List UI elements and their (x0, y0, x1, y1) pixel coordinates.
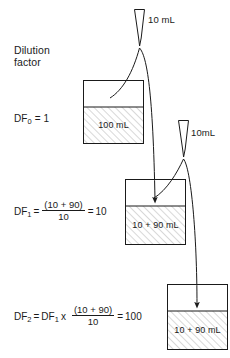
pipette-1-label: 10 mL (148, 14, 175, 25)
pipette-2 (179, 121, 189, 158)
df0-equation: DF0 = 1 (14, 113, 49, 125)
df2-value: 100 (125, 311, 142, 323)
beaker-1 (126, 180, 186, 245)
df2-lhs: DF2 (14, 311, 32, 323)
df0-prefix: DF (14, 113, 28, 124)
transfer-2-intake (154, 159, 184, 198)
df2-fraction: (10 + 90) 10 (72, 305, 114, 329)
df2-equals: = (34, 311, 40, 323)
dilution-factor-heading-line2: factor (14, 56, 50, 68)
df0-value: 1 (44, 113, 50, 124)
df2-times: x (61, 311, 66, 323)
beaker-2-label: 10 + 90 mL (167, 325, 228, 335)
df2-equation: DF2 = DF1 x (10 + 90) 10 = 100 (14, 305, 142, 329)
df2-numerator: (10 + 90) (72, 305, 114, 316)
beaker-0-label: 100 mL (83, 120, 144, 130)
df1-prefix: DF (14, 206, 27, 217)
df0-subscript: 0 (28, 117, 32, 126)
transfer-1-intake (110, 48, 140, 98)
df1-lhs: DF1 (14, 206, 32, 218)
beaker-1-label: 10 + 90 mL (125, 220, 186, 230)
df2-prefix: DF (14, 311, 27, 322)
df1-value: 10 (96, 206, 107, 218)
df1-result-equals: = (88, 206, 94, 218)
df1-denominator: 10 (42, 210, 84, 223)
df2-multiplicand-prefix: DF (41, 311, 54, 322)
df1-numerator: (10 + 90) (42, 200, 84, 211)
dilution-factor-heading-line1: Dilution (14, 44, 50, 56)
pipette-1-body (135, 10, 145, 47)
df2-subscript: 2 (27, 315, 31, 324)
pipette-2-label: 10mL (191, 127, 215, 138)
df1-subscript: 1 (27, 210, 31, 219)
pipette-1 (135, 10, 145, 47)
dilution-factor-heading: Dilution factor (14, 44, 50, 69)
serial-dilution-diagram: Dilution factor DF0 = 1 DF1 = (10 + 90) … (0, 0, 230, 358)
df2-result-equals: = (117, 311, 123, 323)
df1-fraction: (10 + 90) 10 (42, 200, 84, 224)
beaker-0 (84, 81, 144, 144)
df1-equals: = (34, 206, 40, 218)
beaker-2 (168, 285, 228, 350)
df2-multiplicand: DF1 (41, 311, 59, 323)
df2-multiplicand-subscript: 1 (55, 315, 59, 324)
pipette-2-body (179, 121, 189, 158)
df1-equation: DF1 = (10 + 90) 10 = 10 (14, 200, 107, 224)
df0-equals: = (35, 113, 41, 124)
df2-denominator: 10 (72, 315, 114, 328)
